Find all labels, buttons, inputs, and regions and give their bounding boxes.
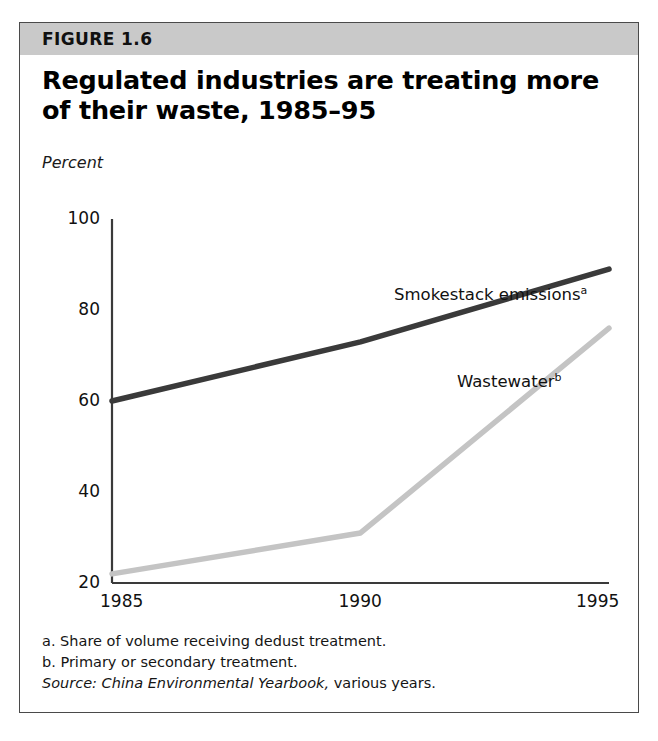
- chart-plot-area: 20406080100 198519901995 Smokestack emis…: [20, 23, 639, 713]
- series-footnote-marker: b: [555, 371, 562, 384]
- series-footnote-marker: a: [581, 284, 588, 297]
- x-tick-label: 1995: [576, 591, 619, 611]
- y-tick-label: 60: [42, 390, 100, 410]
- y-tick-label: 100: [42, 208, 100, 228]
- figure-card: FIGURE 1.6 Regulated industries are trea…: [19, 22, 639, 713]
- note-a: a. Share of volume receiving dedust trea…: [42, 631, 622, 652]
- y-tick-label: 20: [42, 572, 100, 592]
- series-label-wastewater: Wastewaterb: [457, 372, 562, 391]
- series-line-wastewater: [112, 328, 609, 574]
- y-tick-label: 80: [42, 299, 100, 319]
- x-tick-label: 1990: [339, 591, 382, 611]
- y-tick-label: 40: [42, 481, 100, 501]
- source-years-text: various years.: [334, 675, 436, 691]
- x-tick-label: 1985: [100, 591, 143, 611]
- note-b: b. Primary or secondary treatment.: [42, 652, 622, 673]
- series-label-text: Wastewater: [457, 372, 555, 391]
- series-label-smokestack-emissions: Smokestack emissionsa: [394, 285, 587, 304]
- source-line: Source: China Environmental Yearbook, va…: [42, 673, 622, 694]
- figure-notes: a. Share of volume receiving dedust trea…: [42, 631, 622, 694]
- series-label-text: Smokestack emissions: [394, 285, 581, 304]
- source-italic-text: Source: China Environmental Yearbook,: [42, 675, 329, 691]
